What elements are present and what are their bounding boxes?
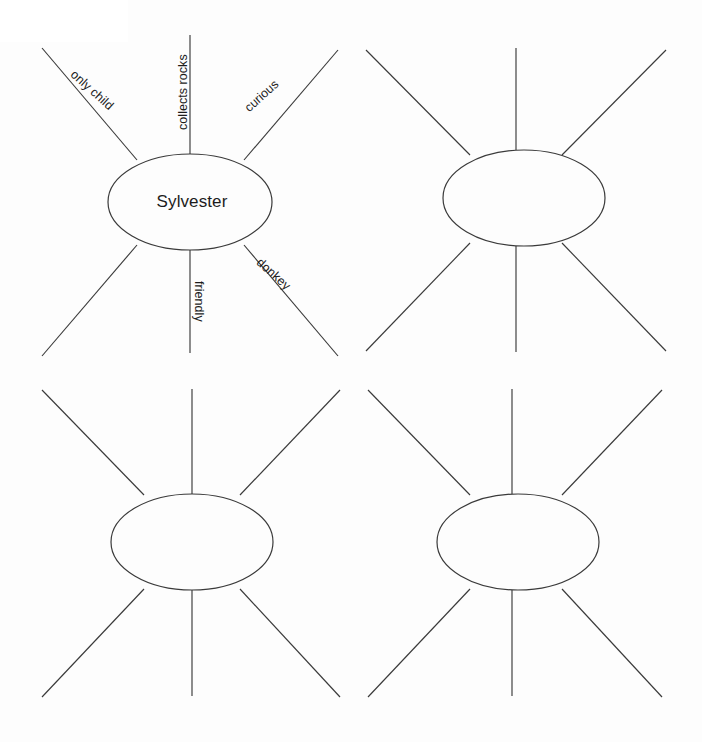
web-1-label-only-child: only child	[68, 67, 116, 113]
web-3-spoke-upper-right[interactable]	[240, 390, 340, 495]
web-2-spoke-lower-right[interactable]	[562, 243, 666, 351]
web-2-spoke-lower-left[interactable]	[366, 243, 470, 351]
web-2-spoke-upper-left[interactable]	[366, 50, 470, 155]
web-4-spoke-upper-right[interactable]	[562, 390, 662, 495]
web-3-spoke-lower-left[interactable]	[42, 589, 144, 697]
web-1-center-label: Sylvester	[157, 192, 228, 211]
web-4-spoke-upper-left[interactable]	[368, 390, 470, 495]
web-1-label-donkey: donkey	[254, 255, 294, 293]
web-2-center-ellipse[interactable]	[443, 150, 605, 246]
web-3	[42, 389, 340, 697]
web-1-label-collects-rocks: collects rocks	[176, 54, 190, 130]
web-1-spoke-upper-left[interactable]	[42, 48, 137, 160]
web-3-spoke-lower-right[interactable]	[240, 589, 340, 697]
web-4	[368, 389, 662, 697]
worksheet-page: Sylvester only child collects rocks curi…	[0, 0, 702, 742]
web-1-spoke-lower-left[interactable]	[42, 245, 137, 356]
web-1-label-friendly: friendly	[192, 281, 206, 322]
web-2-spoke-upper-right[interactable]	[562, 50, 666, 155]
web-2	[366, 48, 666, 352]
web-3-spoke-upper-left[interactable]	[42, 390, 144, 495]
web-4-spoke-lower-right[interactable]	[562, 589, 662, 697]
web-4-center-ellipse[interactable]	[437, 494, 599, 590]
word-web-canvas: Sylvester only child collects rocks curi…	[0, 0, 702, 742]
web-1: Sylvester only child collects rocks curi…	[42, 35, 338, 356]
web-4-spoke-lower-left[interactable]	[368, 589, 470, 697]
web-1-label-curious: curious	[242, 77, 282, 115]
web-3-center-ellipse[interactable]	[111, 494, 273, 590]
